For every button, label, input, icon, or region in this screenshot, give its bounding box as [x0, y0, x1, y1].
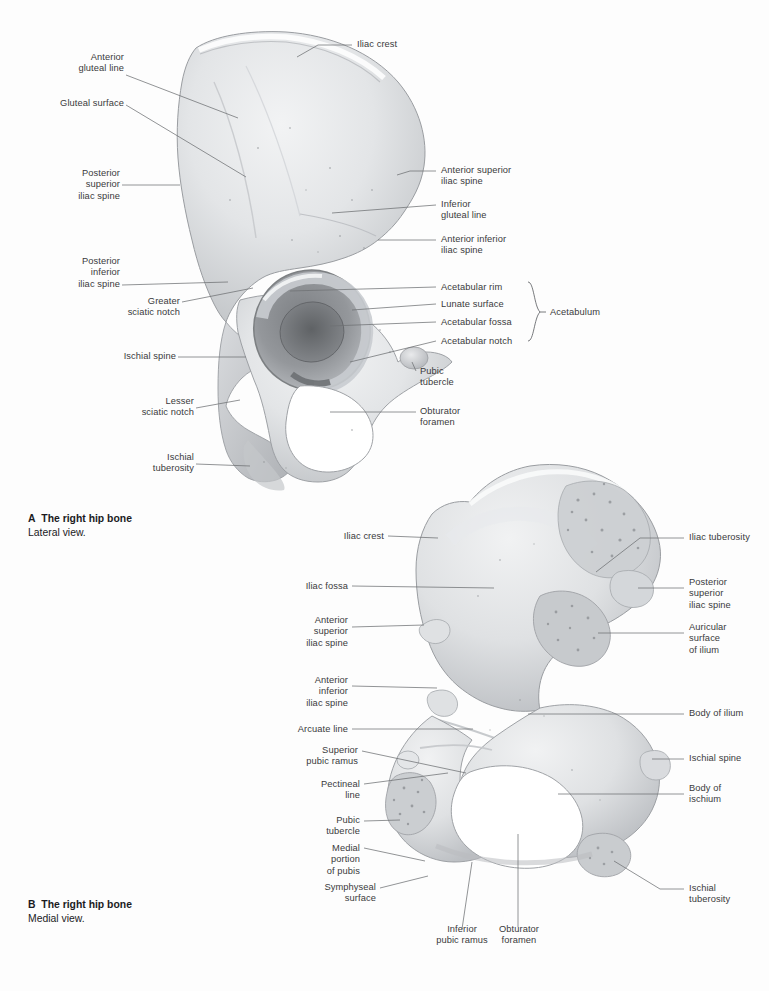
label-b-body-of-ischium: Body of ischium — [689, 783, 769, 806]
label-b-superior-pubic-ramus: Superior pubic ramus — [286, 745, 358, 768]
caption-panel-b: B The right hip bone Medial view. — [28, 898, 132, 926]
label-b-anterior-inferior-iliac-spine: Anterior inferior iliac spine — [286, 675, 348, 709]
label-b-arcuate-line: Arcuate line — [286, 724, 348, 735]
label-b-body-of-ilium: Body of ilium — [689, 708, 769, 719]
label-b-obturator-foramen: Obturator foramen — [487, 924, 551, 947]
panel-b-illustration — [0, 0, 769, 991]
label-b-medial-portion-of-pubis: Medial portion of pubis — [290, 843, 360, 877]
label-b-iliac-fossa: Iliac fossa — [300, 581, 348, 592]
label-b-anterior-superior-iliac-spine: Anterior superior iliac spine — [286, 615, 348, 649]
hip-bone-medial — [386, 464, 671, 876]
atlas-page: Anterior gluteal line Gluteal surface Po… — [0, 0, 769, 991]
label-b-ischial-tuberosity: Ischial tuberosity — [689, 883, 769, 906]
label-b-pectineal-line: Pectineal line — [290, 779, 360, 802]
label-b-posterior-superior-iliac-spine: Posterior superior iliac spine — [689, 577, 767, 611]
label-b-iliac-crest: Iliac crest — [300, 531, 384, 542]
label-b-symphyseal-surface: Symphyseal surface — [296, 882, 376, 905]
label-b-auricular-surface-of-ilium: Auricular surface of ilium — [689, 622, 767, 656]
caption-b-subtitle: Medial view. — [28, 912, 132, 926]
label-b-pubic-tubercle: Pubic tubercle — [290, 815, 360, 838]
caption-b-letter: B — [28, 899, 36, 910]
label-b-iliac-tuberosity: Iliac tuberosity — [689, 532, 769, 543]
label-b-ischial-spine: Ischial spine — [689, 753, 769, 764]
caption-b-title: The right hip bone — [41, 899, 132, 910]
